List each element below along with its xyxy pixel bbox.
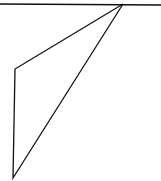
triangle (13, 4, 123, 178)
diagram-canvas (0, 0, 161, 181)
diagram-svg (0, 0, 161, 181)
horizontal-line (0, 4, 161, 5)
